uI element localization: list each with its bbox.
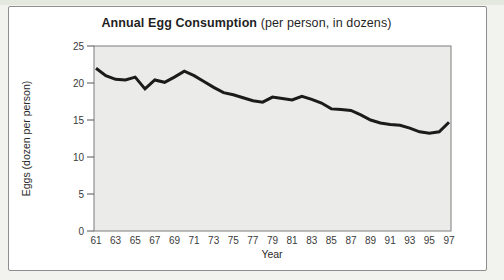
x-tick-label: 97	[443, 235, 455, 246]
y-tick-label: 0	[78, 226, 84, 237]
x-tick-label: 73	[208, 235, 220, 246]
y-tick-label: 5	[78, 189, 84, 200]
x-tick-label: 95	[424, 235, 436, 246]
y-tick-label: 25	[73, 41, 85, 52]
x-tick-label: 89	[365, 235, 377, 246]
x-tick-label: 65	[130, 235, 142, 246]
x-tick-label: 79	[267, 235, 279, 246]
y-axis-title: Eggs (dozen per person)	[20, 81, 32, 197]
x-tick-label: 63	[110, 235, 122, 246]
x-tick-label: 77	[247, 235, 259, 246]
y-tick-label: 20	[73, 78, 85, 89]
line-chart: 0510152025616365676971737577798183858789…	[0, 0, 504, 280]
x-tick-label: 85	[326, 235, 338, 246]
x-tick-label: 67	[149, 235, 161, 246]
page-background: Annual Egg Consumption (per person, in d…	[0, 0, 504, 280]
x-tick-label: 71	[188, 235, 200, 246]
y-tick-label: 15	[73, 115, 85, 126]
x-tick-label: 87	[345, 235, 357, 246]
x-axis-title: Year	[261, 248, 283, 260]
x-tick-label: 75	[228, 235, 240, 246]
x-tick-label: 91	[385, 235, 397, 246]
x-tick-label: 83	[306, 235, 318, 246]
x-tick-label: 69	[169, 235, 181, 246]
x-tick-label: 81	[287, 235, 299, 246]
x-tick-label: 61	[90, 235, 102, 246]
y-tick-label: 10	[73, 152, 85, 163]
x-tick-label: 93	[404, 235, 416, 246]
plot-area	[94, 46, 451, 231]
